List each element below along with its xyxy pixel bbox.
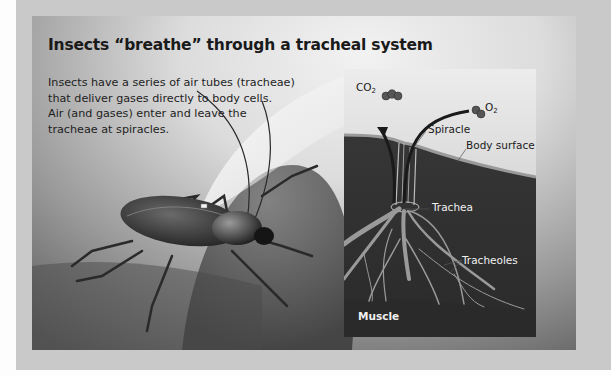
description-line: tracheae at spiracles. [48, 122, 288, 138]
co2-label: CO2 [356, 81, 376, 95]
o2-label: O2 [485, 101, 498, 115]
description-line: Air (and gases) enter and leave the [48, 106, 288, 122]
body-surface-label: Body surface [466, 139, 535, 151]
tracheal-cross-section-inset: CO2 O2 Spiracle Body surface Trachea Tra… [344, 69, 536, 337]
tracheoles-label: Tracheoles [462, 254, 518, 266]
description-line: that deliver gases directly to body cell… [48, 91, 288, 107]
spiracle-label: Spiracle [428, 123, 470, 135]
description-line: Insects have a series of air tubes (trac… [48, 75, 288, 91]
trachea-label: Trachea [432, 201, 473, 213]
infographic-title: Insects “breathe” through a tracheal sys… [48, 36, 433, 54]
infographic-panel: Insects “breathe” through a tracheal sys… [32, 16, 576, 350]
description-text: Insects have a series of air tubes (trac… [48, 75, 288, 137]
muscle-label: Muscle [358, 310, 399, 322]
